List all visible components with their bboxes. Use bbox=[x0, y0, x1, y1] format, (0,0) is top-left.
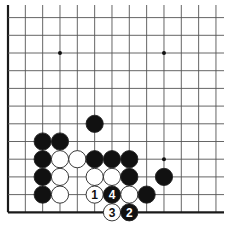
white-stone bbox=[51, 168, 68, 185]
white-stone bbox=[121, 186, 138, 203]
black-stone-icon bbox=[103, 151, 120, 168]
black-stone-move-4: 4 bbox=[103, 186, 120, 203]
black-stone-icon bbox=[34, 186, 51, 203]
black-stone bbox=[86, 115, 103, 132]
black-stone bbox=[51, 133, 68, 150]
black-stone bbox=[103, 151, 120, 168]
black-stone bbox=[121, 151, 138, 168]
move-number: 4 bbox=[109, 188, 116, 202]
star-point-icon bbox=[162, 157, 166, 161]
black-stone-icon bbox=[34, 168, 51, 185]
white-stone bbox=[86, 168, 103, 185]
white-stone-icon bbox=[51, 186, 68, 203]
black-stone bbox=[34, 186, 51, 203]
white-stone bbox=[51, 186, 68, 203]
star-point-icon bbox=[58, 51, 62, 55]
black-stone-icon bbox=[34, 133, 51, 150]
move-number: 1 bbox=[91, 188, 98, 202]
black-stone-icon bbox=[155, 168, 172, 185]
black-stone bbox=[34, 168, 51, 185]
black-stone-icon bbox=[86, 151, 103, 168]
white-stone bbox=[69, 151, 86, 168]
black-stone bbox=[138, 186, 155, 203]
black-stone-icon bbox=[121, 168, 138, 185]
white-stone bbox=[103, 168, 120, 185]
black-stone bbox=[34, 133, 51, 150]
black-stone-move-2: 2 bbox=[121, 204, 138, 221]
white-stone-icon bbox=[69, 151, 86, 168]
white-stone-move-3: 3 bbox=[103, 204, 120, 221]
white-stone-icon bbox=[51, 168, 68, 185]
black-stone-icon bbox=[51, 133, 68, 150]
black-stone-icon bbox=[86, 115, 103, 132]
black-stone bbox=[86, 151, 103, 168]
black-stone-icon bbox=[138, 186, 155, 203]
white-stone-move-1: 1 bbox=[86, 186, 103, 203]
black-stone-icon bbox=[34, 151, 51, 168]
go-board: 1432 bbox=[0, 0, 230, 230]
black-stone-icon bbox=[121, 151, 138, 168]
move-number: 2 bbox=[126, 206, 133, 220]
move-number: 3 bbox=[109, 206, 116, 220]
black-stone bbox=[155, 168, 172, 185]
white-stone-icon bbox=[121, 186, 138, 203]
stones: 1432 bbox=[34, 115, 173, 221]
star-point-icon bbox=[162, 51, 166, 55]
white-stone-icon bbox=[86, 168, 103, 185]
white-stone bbox=[51, 151, 68, 168]
white-stone-icon bbox=[51, 151, 68, 168]
white-stone-icon bbox=[103, 168, 120, 185]
black-stone bbox=[34, 151, 51, 168]
black-stone bbox=[121, 168, 138, 185]
